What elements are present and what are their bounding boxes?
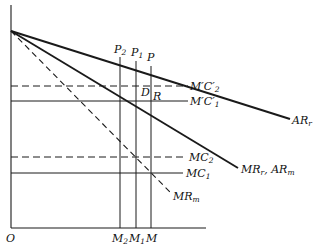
m-axis-label: M (145, 232, 158, 245)
mpc1-label: M′C′1 (189, 95, 219, 109)
point-p2-label: P2 (113, 43, 126, 57)
point-d-label: D (140, 86, 150, 99)
mc2-label: MC2 (188, 151, 214, 165)
mr-r-ar-m-label: MRr, ARm (240, 163, 295, 177)
mpc2-label: M′C′2 (189, 80, 220, 94)
point-p-label: P (146, 51, 155, 64)
m2-axis-label: M2 (111, 232, 128, 246)
ar-r-label: ARr (291, 114, 312, 128)
point-p1-label: P1 (130, 46, 143, 60)
price-output-diagram: P2 P1 P D R M′C′2 M′C′1 MC2 MC1 ARr MRr,… (0, 0, 330, 250)
mr-m-label: MRm (172, 190, 200, 204)
origin-label: O (6, 232, 15, 245)
mc1-label: MC1 (185, 167, 210, 181)
m1-axis-label: M1 (128, 232, 145, 246)
point-r-label: R (152, 90, 161, 103)
